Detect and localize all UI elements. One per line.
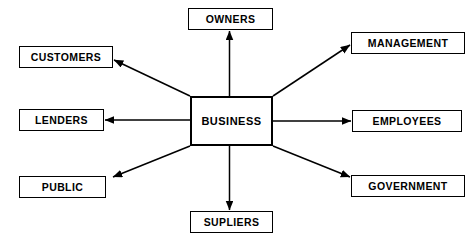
node-supliers-label: SUPLIERS: [204, 216, 260, 228]
node-employees[interactable]: EMPLOYEES: [352, 110, 462, 132]
node-government[interactable]: GOVERNMENT: [351, 175, 465, 197]
node-management-label: MANAGEMENT: [368, 37, 448, 49]
node-public-label: PUBLIC: [42, 181, 83, 193]
edge-business-to-government: [273, 146, 350, 177]
node-government-label: GOVERNMENT: [368, 180, 447, 192]
edge-business-to-customers: [114, 60, 190, 96]
node-lenders-label: LENDERS: [35, 114, 88, 126]
edge-business-to-public: [113, 146, 190, 177]
node-owners-label: OWNERS: [206, 13, 256, 25]
node-business-label: BUSINESS: [201, 115, 261, 127]
node-customers[interactable]: CUSTOMERS: [19, 46, 113, 68]
diagram-canvas: BUSINESS OWNERS MANAGEMENT CUSTOMERS LEN…: [0, 0, 470, 245]
node-public[interactable]: PUBLIC: [19, 176, 106, 198]
node-management[interactable]: MANAGEMENT: [351, 32, 465, 54]
node-customers-label: CUSTOMERS: [31, 51, 102, 63]
node-supliers[interactable]: SUPLIERS: [190, 211, 273, 233]
edge-business-to-management: [273, 45, 350, 96]
node-owners[interactable]: OWNERS: [188, 8, 273, 30]
node-lenders[interactable]: LENDERS: [19, 109, 104, 131]
node-business[interactable]: BUSINESS: [190, 96, 273, 146]
node-employees-label: EMPLOYEES: [373, 115, 442, 127]
